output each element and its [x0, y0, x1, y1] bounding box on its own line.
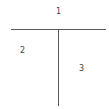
region-label-top: 1	[56, 7, 61, 16]
partition-diagram: 1 2 3	[0, 0, 109, 109]
vertical-divider	[58, 29, 59, 106]
region-label-bottom-left: 2	[20, 46, 25, 55]
region-label-bottom-right: 3	[79, 64, 84, 73]
